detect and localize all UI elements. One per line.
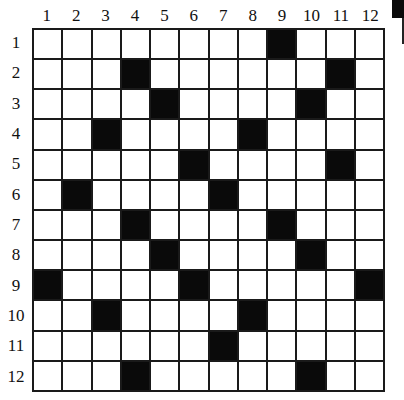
- white-cell[interactable]: [297, 301, 324, 329]
- white-cell[interactable]: [93, 181, 120, 209]
- white-cell[interactable]: [180, 301, 207, 329]
- white-cell[interactable]: [356, 211, 383, 239]
- white-cell[interactable]: [63, 30, 90, 58]
- white-cell[interactable]: [356, 362, 383, 390]
- white-cell[interactable]: [34, 332, 61, 360]
- white-cell[interactable]: [239, 60, 266, 88]
- white-cell[interactable]: [239, 362, 266, 390]
- white-cell[interactable]: [356, 241, 383, 269]
- white-cell[interactable]: [93, 241, 120, 269]
- white-cell[interactable]: [327, 90, 354, 118]
- white-cell[interactable]: [122, 271, 149, 299]
- white-cell[interactable]: [93, 30, 120, 58]
- white-cell[interactable]: [268, 362, 295, 390]
- white-cell[interactable]: [239, 332, 266, 360]
- white-cell[interactable]: [34, 241, 61, 269]
- white-cell[interactable]: [34, 211, 61, 239]
- white-cell[interactable]: [239, 181, 266, 209]
- white-cell[interactable]: [122, 90, 149, 118]
- white-cell[interactable]: [297, 30, 324, 58]
- white-cell[interactable]: [63, 271, 90, 299]
- white-cell[interactable]: [268, 241, 295, 269]
- white-cell[interactable]: [122, 332, 149, 360]
- white-cell[interactable]: [327, 241, 354, 269]
- white-cell[interactable]: [268, 60, 295, 88]
- white-cell[interactable]: [122, 151, 149, 179]
- white-cell[interactable]: [210, 301, 237, 329]
- white-cell[interactable]: [268, 332, 295, 360]
- white-cell[interactable]: [239, 30, 266, 58]
- white-cell[interactable]: [151, 332, 178, 360]
- white-cell[interactable]: [93, 332, 120, 360]
- white-cell[interactable]: [239, 271, 266, 299]
- white-cell[interactable]: [297, 332, 324, 360]
- white-cell[interactable]: [297, 271, 324, 299]
- white-cell[interactable]: [34, 60, 61, 88]
- white-cell[interactable]: [356, 90, 383, 118]
- white-cell[interactable]: [180, 241, 207, 269]
- white-cell[interactable]: [210, 211, 237, 239]
- white-cell[interactable]: [63, 362, 90, 390]
- white-cell[interactable]: [356, 332, 383, 360]
- white-cell[interactable]: [63, 151, 90, 179]
- white-cell[interactable]: [297, 181, 324, 209]
- white-cell[interactable]: [327, 211, 354, 239]
- white-cell[interactable]: [180, 30, 207, 58]
- white-cell[interactable]: [356, 60, 383, 88]
- white-cell[interactable]: [268, 120, 295, 148]
- white-cell[interactable]: [34, 30, 61, 58]
- white-cell[interactable]: [297, 211, 324, 239]
- white-cell[interactable]: [93, 151, 120, 179]
- white-cell[interactable]: [239, 211, 266, 239]
- white-cell[interactable]: [63, 60, 90, 88]
- white-cell[interactable]: [180, 181, 207, 209]
- white-cell[interactable]: [34, 181, 61, 209]
- white-cell[interactable]: [34, 151, 61, 179]
- white-cell[interactable]: [239, 151, 266, 179]
- white-cell[interactable]: [34, 362, 61, 390]
- white-cell[interactable]: [268, 301, 295, 329]
- white-cell[interactable]: [151, 151, 178, 179]
- white-cell[interactable]: [239, 90, 266, 118]
- white-cell[interactable]: [210, 271, 237, 299]
- white-cell[interactable]: [63, 211, 90, 239]
- white-cell[interactable]: [356, 151, 383, 179]
- white-cell[interactable]: [210, 90, 237, 118]
- white-cell[interactable]: [327, 271, 354, 299]
- white-cell[interactable]: [268, 181, 295, 209]
- white-cell[interactable]: [210, 151, 237, 179]
- white-cell[interactable]: [151, 211, 178, 239]
- white-cell[interactable]: [180, 362, 207, 390]
- white-cell[interactable]: [180, 332, 207, 360]
- white-cell[interactable]: [93, 211, 120, 239]
- white-cell[interactable]: [93, 271, 120, 299]
- white-cell[interactable]: [93, 60, 120, 88]
- white-cell[interactable]: [151, 301, 178, 329]
- white-cell[interactable]: [151, 30, 178, 58]
- white-cell[interactable]: [151, 362, 178, 390]
- white-cell[interactable]: [297, 60, 324, 88]
- white-cell[interactable]: [63, 120, 90, 148]
- white-cell[interactable]: [356, 120, 383, 148]
- white-cell[interactable]: [180, 211, 207, 239]
- white-cell[interactable]: [34, 90, 61, 118]
- white-cell[interactable]: [210, 60, 237, 88]
- white-cell[interactable]: [356, 181, 383, 209]
- white-cell[interactable]: [327, 301, 354, 329]
- white-cell[interactable]: [327, 120, 354, 148]
- white-cell[interactable]: [34, 120, 61, 148]
- white-cell[interactable]: [63, 90, 90, 118]
- white-cell[interactable]: [210, 30, 237, 58]
- white-cell[interactable]: [122, 120, 149, 148]
- white-cell[interactable]: [151, 181, 178, 209]
- white-cell[interactable]: [268, 271, 295, 299]
- white-cell[interactable]: [122, 301, 149, 329]
- white-cell[interactable]: [356, 30, 383, 58]
- white-cell[interactable]: [268, 151, 295, 179]
- white-cell[interactable]: [180, 60, 207, 88]
- white-cell[interactable]: [93, 90, 120, 118]
- white-cell[interactable]: [356, 301, 383, 329]
- white-cell[interactable]: [327, 332, 354, 360]
- white-cell[interactable]: [122, 30, 149, 58]
- white-cell[interactable]: [151, 60, 178, 88]
